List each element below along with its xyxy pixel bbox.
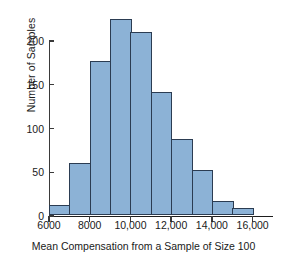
histogram-bar — [171, 139, 193, 215]
histogram-bar — [232, 208, 254, 215]
y-axis-tick-mark — [49, 215, 54, 216]
histogram-bar — [212, 201, 234, 215]
plot-area — [49, 10, 273, 217]
histogram-bar — [49, 205, 71, 216]
histogram-bar — [192, 170, 214, 216]
histogram-bar — [110, 19, 132, 216]
y-axis-tick-label: 150 — [18, 80, 44, 90]
histogram-figure: Number of Samples 050100150200 600080001… — [0, 0, 287, 265]
y-axis-tick-mark — [49, 84, 54, 85]
x-axis-title: Mean Compensation from a Sample of Size … — [0, 240, 287, 253]
y-axis-tick-mark — [49, 128, 54, 129]
histogram-bar — [151, 92, 173, 215]
y-axis-tick-label: 100 — [18, 124, 44, 134]
y-axis-tick-label: 50 — [18, 167, 44, 177]
histogram-bar — [69, 163, 91, 216]
x-axis-tick-label: 16,000 — [229, 219, 277, 231]
x-axis-tick-labels: 6000800010,00012,00014,00016,000 — [49, 219, 273, 233]
histogram-bar — [90, 61, 112, 215]
y-axis-tick-label: 200 — [18, 36, 44, 46]
histogram-bar — [130, 32, 152, 216]
y-axis-tick-mark — [49, 172, 54, 173]
histogram-bars — [49, 10, 273, 216]
y-axis-tick-mark — [49, 40, 54, 41]
